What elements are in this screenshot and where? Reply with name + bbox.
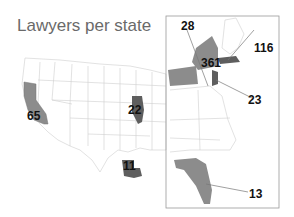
- state-new-jersey: [212, 70, 218, 86]
- state-massachusetts: [218, 56, 240, 64]
- label-massachusetts: 116: [254, 42, 273, 54]
- label-florida: 13: [249, 188, 262, 200]
- label-pennsylvania: 28: [181, 20, 194, 32]
- label-california: 65: [27, 110, 40, 122]
- label-louisiana: 11: [123, 160, 136, 172]
- label-new-jersey: 23: [248, 94, 261, 106]
- label-new-york: 361: [201, 57, 221, 69]
- label-illinois: 22: [128, 104, 141, 116]
- state-pennsylvania: [168, 66, 198, 86]
- state-florida: [174, 158, 212, 204]
- us-map: [0, 0, 294, 217]
